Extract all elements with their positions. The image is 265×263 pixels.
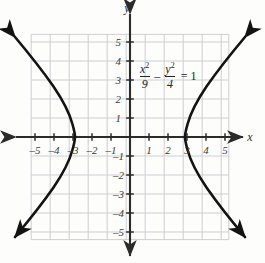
y-tick-label: –2 (112, 169, 125, 181)
equation-rhs: 1 (190, 69, 196, 84)
y-exponent: 2 (171, 61, 175, 70)
x-axis-label: x (246, 130, 253, 144)
x-tick-label: –4 (48, 144, 61, 156)
x-tick-label: 1 (146, 144, 152, 156)
fraction-x-squared-over-9: x2 9 (138, 62, 151, 90)
x-exponent: 2 (145, 61, 149, 70)
denominator-9: 9 (140, 76, 150, 90)
x-tick-label: –3 (67, 144, 80, 156)
y-tick-label: 3 (115, 74, 122, 86)
hyperbola-figure: –5 –4 –3 –2 –1 1 2 3 4 5 5 4 3 2 1 –1 –2… (0, 0, 265, 263)
y-tick-label: 1 (116, 112, 122, 124)
fraction-y-squared-over-4: y2 4 (163, 62, 176, 90)
x-tick-label: 3 (183, 144, 190, 156)
y-tick-label: –1 (112, 150, 124, 162)
y-tick-label: –4 (112, 207, 125, 219)
y-tick-label: 4 (116, 55, 122, 67)
numerator-y-squared: y2 (163, 62, 176, 76)
x-tick-label: –2 (86, 144, 99, 156)
x-tick-label: –5 (29, 144, 42, 156)
graph-canvas: –5 –4 –3 –2 –1 1 2 3 4 5 5 4 3 2 1 –1 –2… (0, 0, 265, 263)
y-tick-label: 2 (116, 93, 122, 105)
x-tick-label: 5 (222, 144, 228, 156)
equals-sign: = (177, 69, 191, 84)
denominator-4: 4 (165, 76, 175, 90)
y-axis-label: y (123, 1, 130, 15)
x-tick-label: 2 (165, 144, 171, 156)
numerator-x-squared: x2 (138, 62, 151, 76)
minus-operator: – (151, 69, 163, 84)
x-tick-label: 4 (203, 144, 209, 156)
x-tick-labels: –5 –4 –3 –2 –1 1 2 3 4 5 (29, 144, 229, 156)
y-tick-label: –5 (112, 226, 125, 238)
y-tick-label: 5 (116, 36, 122, 48)
y-tick-label: –3 (112, 188, 125, 200)
equation-annotation: x2 9 – y2 4 = 1 (138, 62, 196, 90)
